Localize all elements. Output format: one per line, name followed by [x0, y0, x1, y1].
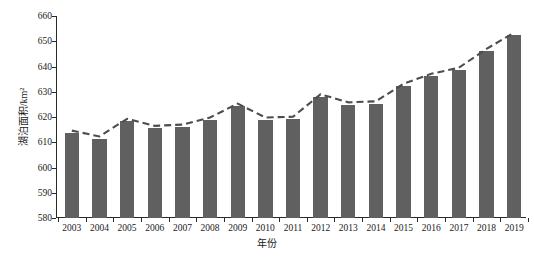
y-axis-tick-labels: 580590600610620630640650660	[24, 0, 52, 262]
x-axis-tick-label: 2019	[494, 222, 534, 234]
trend-line-path	[72, 33, 514, 137]
y-axis-tick-mark	[52, 218, 56, 219]
y-axis-tick-label: 590	[24, 188, 52, 198]
plot-area	[56, 16, 526, 218]
y-axis-tick-label: 620	[24, 112, 52, 122]
x-axis-tick-labels: 2003200420052006200720082009201020112012…	[56, 222, 526, 236]
y-axis-tick-label: 600	[24, 163, 52, 173]
y-axis-tick-label: 660	[24, 11, 52, 21]
trend-line-series	[56, 16, 526, 218]
x-axis-title: 年份	[0, 238, 534, 250]
y-axis-tick-label: 610	[24, 137, 52, 147]
y-axis-tick-label: 580	[24, 213, 52, 223]
y-axis-tick-label: 650	[24, 36, 52, 46]
lake-area-bar-chart: 湖泊面积/km² 580590600610620630640650660 200…	[0, 0, 534, 262]
y-axis-tick-label: 630	[24, 87, 52, 97]
y-axis-tick-label: 640	[24, 62, 52, 72]
